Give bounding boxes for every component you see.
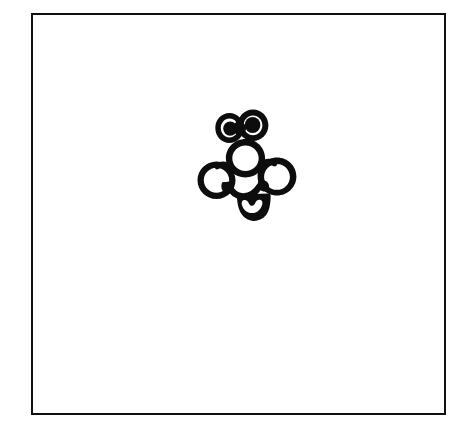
drawing-frame-border — [31, 13, 446, 415]
screenshot-canvas — [0, 0, 464, 430]
